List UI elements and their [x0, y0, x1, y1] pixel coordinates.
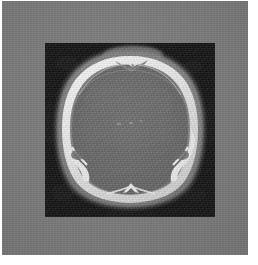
ct-head-axial-slice — [45, 43, 215, 217]
gray-mount-frame — [2, 1, 248, 255]
ct-image-panel[interactable] — [45, 43, 215, 217]
ct-overlay-text — [48, 220, 218, 230]
screenshot-root — [0, 0, 258, 265]
figure-caption — [4, 256, 254, 264]
